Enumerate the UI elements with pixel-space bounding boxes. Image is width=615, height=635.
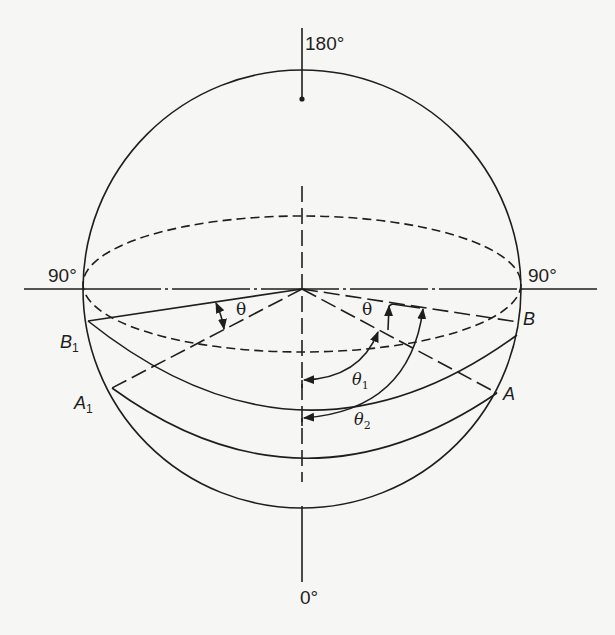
label-point-A1-sub: 1 <box>86 402 93 416</box>
label-theta-1-base: θ <box>352 370 362 389</box>
label-point-A1: A1 <box>74 394 93 415</box>
label-theta-right: θ <box>362 301 372 318</box>
label-point-B1: B1 <box>60 333 79 354</box>
label-theta-1-sub: 1 <box>362 379 369 392</box>
label-theta-left: θ <box>236 301 246 318</box>
label-90-degrees-left: 90° <box>48 266 77 285</box>
top-axis-dot <box>299 96 304 101</box>
label-point-B1-sub: 1 <box>72 341 79 355</box>
label-point-B1-base: B <box>60 332 72 352</box>
label-90-degrees-right: 90° <box>528 266 557 285</box>
circle-A1-A-arc <box>112 388 497 458</box>
label-theta-2-sub: 2 <box>364 419 371 432</box>
label-180-degrees: 180° <box>305 34 344 53</box>
label-point-B: B <box>523 310 535 328</box>
sphere-diagram: 180° 0° 90° 90° B A B1 A1 θ θ θ1 θ2 <box>0 0 615 635</box>
theta-right-arrow <box>388 306 389 330</box>
label-point-A: A <box>503 385 515 403</box>
label-0-degrees: 0° <box>300 588 318 607</box>
theta-left-arrow <box>216 303 224 329</box>
label-theta-2-base: θ <box>354 410 364 429</box>
label-point-A1-base: A <box>74 393 86 413</box>
theta2-arc-arrow <box>304 309 423 418</box>
label-theta-1: θ1 <box>352 372 369 391</box>
label-theta-2: θ2 <box>354 412 371 431</box>
